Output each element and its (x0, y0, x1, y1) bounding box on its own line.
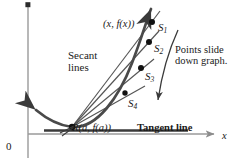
label-s4-subscript: 4 (134, 102, 138, 111)
label-points-slide-row1: Points slide (175, 44, 228, 55)
y-axis-top-mark (25, 2, 30, 7)
point-s3 (138, 65, 144, 71)
label-s2-subscript: 2 (160, 47, 164, 56)
label-points-slide-down-graph: Points slidedown graph. (175, 44, 228, 66)
label-point-x-fx: (x, f(x)) (103, 18, 134, 29)
label-s2: S2 (154, 43, 163, 56)
point-s4 (122, 90, 127, 95)
point-s2 (146, 39, 152, 45)
label-point-r-a-fa: R(a, f(a)) (72, 122, 111, 133)
label-s1-subscript: 1 (164, 26, 168, 35)
label-s3-subscript: 3 (151, 75, 155, 84)
label-secant-lines-row1: Secant (68, 50, 97, 62)
label-x-axis: x (222, 130, 227, 141)
label-tangent-line: Tangent line (137, 122, 192, 133)
point-s1 (149, 19, 155, 25)
label-secant-lines: Secantlines (68, 50, 97, 73)
secant-tangent-figure: (x, f(x)) S1 S2 S3 S4 Secantlines Points… (0, 0, 235, 162)
label-origin: 0 (6, 141, 12, 153)
label-points-slide-row2: down graph. (175, 55, 228, 66)
label-s4: S4 (128, 98, 137, 111)
label-s3: S3 (145, 71, 154, 84)
label-s1: S1 (158, 22, 167, 35)
label-secant-lines-row2: lines (68, 62, 97, 74)
